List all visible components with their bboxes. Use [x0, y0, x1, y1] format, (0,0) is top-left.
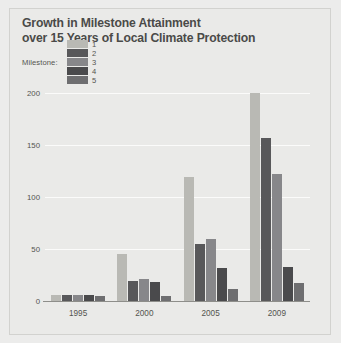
chart-figure: Growth in Milestone Attainment over 15 Y…: [0, 0, 341, 343]
bar: [128, 281, 138, 301]
x-axis-line: [43, 301, 310, 302]
x-axis-tick-label: 2000: [135, 309, 153, 318]
y-axis-tick-label: 0: [36, 297, 40, 306]
x-axis-tick-label: 2005: [202, 309, 220, 318]
legend-swatch-icon: [67, 67, 88, 75]
legend-item: 3: [67, 58, 97, 67]
bar-group: 2009: [244, 83, 310, 301]
chart-legend: Milestone: 12345: [22, 56, 105, 68]
y-axis-tick-label: 100: [27, 193, 40, 202]
legend-item: 2: [67, 49, 97, 58]
legend-item: 4: [67, 67, 97, 76]
legend-swatch-icon: [67, 49, 88, 57]
y-axis-tick-label: 200: [27, 89, 40, 98]
legend-item-label: 3: [92, 58, 96, 67]
bar: [195, 244, 205, 301]
bar-group-bars: [111, 83, 177, 301]
bar: [139, 279, 149, 301]
legend-title: Milestone:: [22, 58, 58, 67]
legend-swatch-icon: [67, 40, 88, 48]
bar-group-bars: [244, 83, 310, 301]
plot-area: 050100150200 1995200020052009: [45, 83, 310, 301]
x-axis-tick-label: 1995: [69, 309, 87, 318]
bar: [283, 267, 293, 301]
legend-item-label: 2: [92, 49, 96, 58]
bar: [184, 177, 194, 301]
legend-item-label: 4: [92, 67, 96, 76]
bar: [206, 239, 216, 301]
bar: [217, 268, 227, 301]
bar-group: 2000: [111, 83, 177, 301]
bar: [117, 254, 127, 301]
bar-group: 2005: [178, 83, 244, 301]
y-axis-tick-label: 150: [27, 141, 40, 150]
bar-group-bars: [45, 83, 111, 301]
bar: [294, 283, 304, 301]
bar: [272, 174, 282, 301]
bar-group: 1995: [45, 83, 111, 301]
x-axis-tick-label: 2009: [268, 309, 286, 318]
legend-swatch-icon: [67, 58, 88, 66]
bar-group-bars: [178, 83, 244, 301]
legend-item-label: 1: [92, 40, 96, 49]
bar: [261, 138, 271, 301]
bar: [228, 289, 238, 301]
bar: [150, 282, 160, 301]
chart-title-line-2: over 15 Years of Local Climate Protectio…: [22, 31, 312, 46]
y-axis-tick-label: 50: [31, 245, 40, 254]
chart-title: Growth in Milestone Attainment over 15 Y…: [22, 16, 312, 45]
bar: [250, 93, 260, 301]
legend-item: 1: [67, 40, 97, 49]
legend-items: 12345: [67, 40, 106, 85]
chart-title-line-1: Growth in Milestone Attainment: [22, 16, 312, 31]
